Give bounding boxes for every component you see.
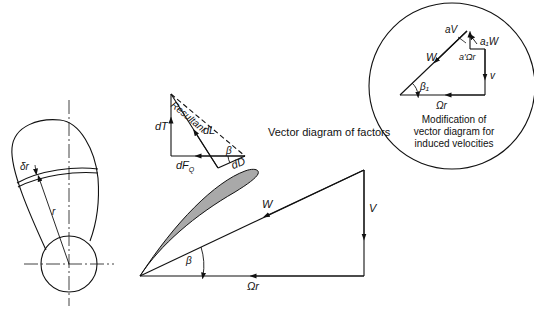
label-dT: dT <box>155 120 168 132</box>
inset-a1W-arrow <box>471 36 477 44</box>
label-dFQ-main: dF <box>176 159 189 171</box>
inset-label-beta1: β₁ <box>420 81 429 93</box>
velocity-diagram <box>140 169 364 276</box>
dL-arrow <box>195 132 218 168</box>
airfoil-section <box>140 169 258 276</box>
inset-caption: Modification of vector diagram for induc… <box>396 114 512 150</box>
blade-outline <box>12 120 99 250</box>
label-omega-r: Ωr <box>247 280 259 292</box>
label-dFQ-sub: Q <box>189 166 194 173</box>
inset-beta1-arc <box>412 83 418 95</box>
inset-caption-line-1: Modification of <box>396 114 512 126</box>
W-arrow <box>266 170 364 216</box>
inset-label-W: W <box>426 51 436 63</box>
inset-label-omega-r: Ωr <box>436 100 447 112</box>
label-beta-velocity: β <box>186 255 192 267</box>
blade-element-strip-inner <box>18 173 98 187</box>
inset-caption-line-3: induced velocities <box>396 138 512 150</box>
inset-aV-pointer <box>458 37 466 43</box>
radius-arrow <box>39 178 69 264</box>
label-dL: dL <box>203 124 215 136</box>
label-beta-force: β <box>226 145 232 157</box>
inset-caption-line-2: vector diagram for <box>396 126 512 138</box>
inset-label-a1W: a₁W <box>480 36 498 48</box>
title-vector-diagram: Vector diagram of factors <box>268 126 390 138</box>
delta-r-arrow <box>35 165 36 172</box>
inset-label-v: v <box>490 70 495 82</box>
label-V: V <box>369 202 376 214</box>
inset-label-a-prime-omega-r: a′Ωr <box>459 51 476 63</box>
beta-arc-velocity <box>201 247 204 276</box>
propeller-blade-element-diagram: Vector diagram of factors δr r Resultant… <box>0 0 534 309</box>
blade-element-strip-outer <box>17 168 98 183</box>
blade-view <box>12 100 114 306</box>
label-dFQ: dFQ <box>176 159 194 176</box>
label-r: r <box>52 206 55 218</box>
inset-label-aV: aV <box>445 24 457 36</box>
diagram-canvas <box>0 0 534 309</box>
label-delta-r: δr <box>20 161 29 173</box>
label-W: W <box>262 198 272 210</box>
